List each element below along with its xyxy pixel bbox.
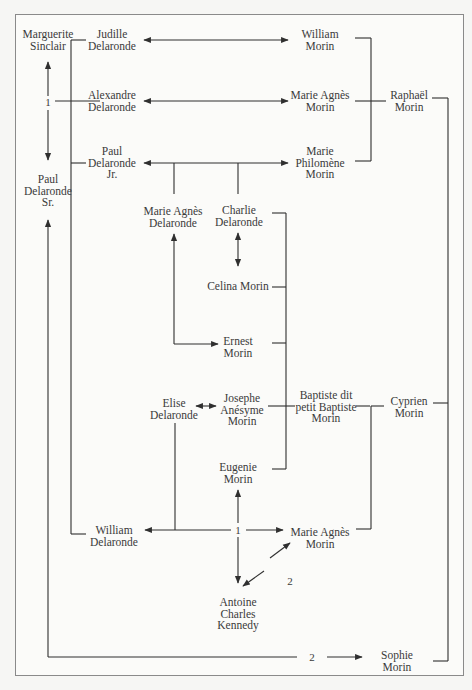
person-william-delaronde: WilliamDelaronde (90, 525, 138, 548)
person-raphael-morin: RaphaëlMorin (390, 90, 428, 113)
person-antoine-charles-kennedy: AntoineCharlesKennedy (217, 597, 259, 632)
person-celina-morin: Celina Morin (207, 281, 269, 293)
person-charlie-delaronde: CharlieDelaronde (215, 205, 263, 228)
person-marie-agnes-morin-bottom: Marie AgnèsMorin (290, 527, 349, 550)
person-william-morin: WilliamMorin (301, 29, 338, 52)
person-cyprien-morin: CyprienMorin (390, 396, 427, 419)
marriage-label-marie-agnes-antoine: 2 (286, 575, 294, 587)
person-ernest-morin: ErnestMorin (223, 336, 252, 359)
marriage-label-william-marie-agnes: 1 (234, 524, 242, 536)
person-paul-delaronde-jr: PaulDelarondeJr. (88, 146, 136, 181)
person-baptiste-morin: Baptiste ditpetit BaptisteMorin (295, 390, 356, 425)
person-marie-agnes-delaronde: Marie AgnèsDelaronde (143, 206, 202, 229)
person-sophie-morin: SophieMorin (381, 650, 413, 673)
person-marie-agnes-morin-top: Marie AgnèsMorin (290, 90, 349, 113)
marriage-label-sinclair-paul-sr: 1 (44, 96, 52, 108)
person-josephe-anesyme-morin: JosepheAnésymeMorin (220, 393, 263, 428)
person-elise-delaronde: EliseDelaronde (150, 398, 198, 421)
marriage-label-paul-sr-sophie: 2 (308, 651, 316, 663)
person-marguerite-sinclair: MargueriteSinclair (23, 29, 74, 52)
person-judille-delaronde: JudilleDelaronde (88, 29, 136, 52)
person-alexandre-delaronde: AlexandreDelaronde (88, 90, 136, 113)
person-paul-delaronde-sr: PaulDelarondeSr. (24, 174, 72, 209)
person-eugenie-morin: EugenieMorin (219, 462, 257, 485)
person-marie-philomene-morin: MariePhilomèneMorin (295, 146, 344, 181)
